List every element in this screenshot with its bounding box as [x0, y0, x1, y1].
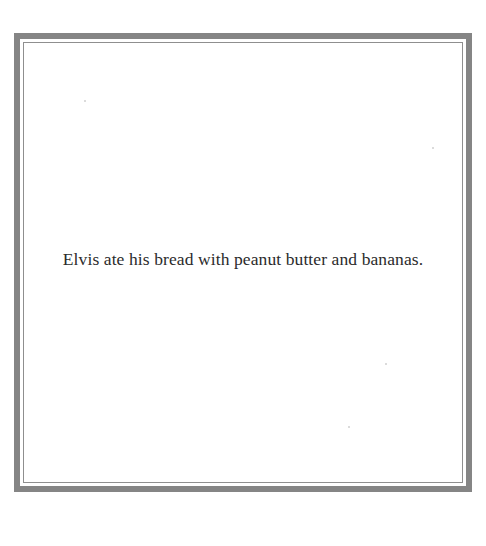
scan-speck	[348, 426, 350, 428]
scan-speck	[432, 147, 434, 149]
card-caption: Elvis ate his bread with peanut butter a…	[24, 249, 462, 270]
card-frame: Elvis ate his bread with peanut butter a…	[14, 33, 472, 492]
card-inner-border: Elvis ate his bread with peanut butter a…	[23, 42, 463, 483]
scan-speck	[385, 363, 387, 365]
scan-speck	[84, 100, 86, 102]
